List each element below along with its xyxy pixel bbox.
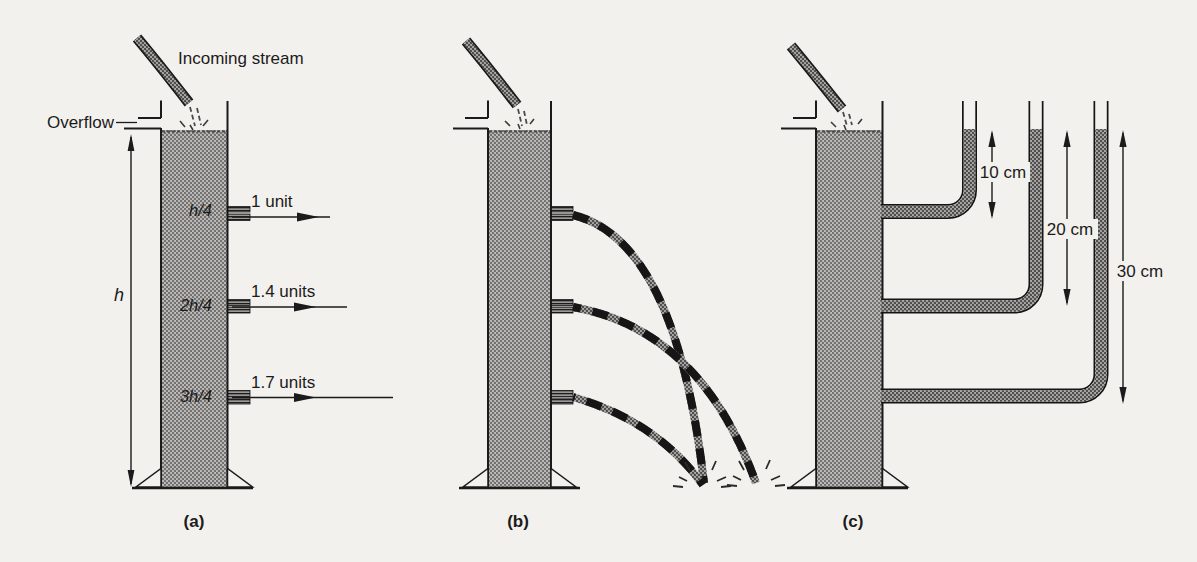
tank-b: (b): [453, 41, 785, 531]
tank-c: 10 cm 20 cm 30 cm (c): [781, 46, 1169, 531]
tank-b-outlet-stubs: [552, 207, 574, 405]
depth-label-2h4: 2h/4: [179, 296, 212, 314]
depth-label-h4: h/4: [189, 201, 212, 219]
tank-b-overflow-spout: [453, 118, 488, 129]
tank-c-left-foot: [791, 469, 816, 488]
water-jet-top: [573, 215, 704, 483]
figure-canvas: Incoming stream Overflow h h/4 2h/4 3h/4…: [0, 0, 1197, 562]
flow-label-17units: 1.7 units: [251, 373, 315, 392]
water-jet-middle: [573, 307, 756, 483]
falling-stream-a: [190, 107, 201, 126]
incoming-stream-label: Incoming stream: [178, 49, 304, 68]
falling-stream-c: [843, 112, 852, 126]
tank-b-left-foot: [463, 469, 488, 488]
tank-b-water: [489, 130, 550, 487]
figure-page: Incoming stream Overflow h h/4 2h/4 3h/4…: [0, 0, 1197, 562]
flow-arrow-3: [232, 393, 393, 402]
dimension-arrow-20cm: [1063, 130, 1070, 306]
standpipe-10cm: [881, 97, 970, 212]
measurement-label-20cm: 20 cm: [1047, 220, 1093, 239]
incoming-pipe-b: [466, 41, 534, 129]
measurement-label-30cm: 30 cm: [1117, 262, 1163, 281]
measurement-label-10cm: 10 cm: [980, 163, 1026, 182]
tank-c-right-foot: [883, 469, 908, 488]
tank-a-right-foot: [228, 469, 253, 488]
caption-c: (c): [843, 512, 864, 531]
flow-label-14units: 1.4 units: [251, 282, 315, 301]
tank-b-right-foot: [551, 469, 576, 488]
flow-label-1unit: 1 unit: [251, 192, 293, 211]
height-label-h: h: [114, 285, 124, 305]
tank-c-water: [817, 130, 882, 487]
caption-b: (b): [507, 512, 529, 531]
overflow-label: Overflow: [47, 113, 115, 132]
water-jet-bottom: [573, 397, 703, 485]
depth-label-3h4: 3h/4: [180, 387, 212, 405]
tank-a: Incoming stream Overflow h h/4 2h/4 3h/4…: [47, 38, 393, 531]
height-arrow-h: [128, 134, 135, 487]
tank-a-overflow-spout: [124, 118, 161, 129]
tank-c-overflow-spout: [781, 118, 816, 129]
tank-a-left-foot: [136, 469, 161, 488]
caption-a: (a): [184, 512, 205, 531]
tank-a-outlet-stubs: [228, 207, 250, 405]
falling-stream-b: [518, 109, 527, 126]
surface-splash-b: [505, 119, 534, 129]
